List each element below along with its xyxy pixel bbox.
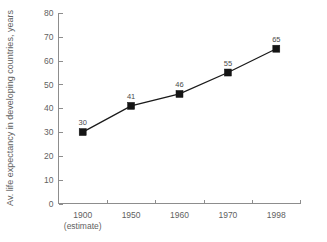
- x-tick-label: 1950: [122, 210, 141, 220]
- y-tick-label: 10: [44, 175, 54, 185]
- y-tick-label: 30: [44, 127, 54, 137]
- y-tick-label: 70: [44, 32, 54, 42]
- series-point-labels: 3041465565: [79, 35, 281, 127]
- data-point-marker: [128, 102, 135, 109]
- x-tick-label: 1900: [73, 210, 92, 220]
- y-tick-label: 0: [49, 199, 54, 209]
- data-point-label: 65: [272, 35, 280, 44]
- data-point-label: 41: [127, 92, 135, 101]
- chart-container: Av. life expectancy in developing countr…: [0, 0, 327, 242]
- data-point-marker: [273, 45, 280, 52]
- data-point-label: 46: [175, 80, 183, 89]
- data-point-marker: [224, 69, 231, 76]
- y-tick-label: 50: [44, 80, 54, 90]
- data-point-label: 30: [79, 118, 87, 127]
- y-axis-title: Av. life expectancy in developing countr…: [5, 10, 15, 206]
- data-point-marker: [79, 129, 86, 136]
- y-tick-label: 80: [44, 8, 54, 18]
- y-tick-label: 40: [44, 103, 54, 113]
- y-axis-ticks: 01020304050607080: [44, 8, 62, 209]
- x-tick-sublabel: (estimate): [64, 221, 102, 231]
- series-markers: [79, 45, 280, 135]
- data-point-marker: [176, 90, 183, 97]
- y-tick-label: 20: [44, 151, 54, 161]
- y-tick-label: 60: [44, 56, 54, 66]
- x-tick-label: 1998: [267, 210, 286, 220]
- life-expectancy-line-chart: Av. life expectancy in developing countr…: [0, 0, 327, 242]
- x-axis-ticks: 1900(estimate)1950196019701998: [64, 200, 300, 231]
- x-tick-label: 1960: [170, 210, 189, 220]
- x-tick-label: 1970: [218, 210, 237, 220]
- data-point-label: 55: [224, 59, 232, 68]
